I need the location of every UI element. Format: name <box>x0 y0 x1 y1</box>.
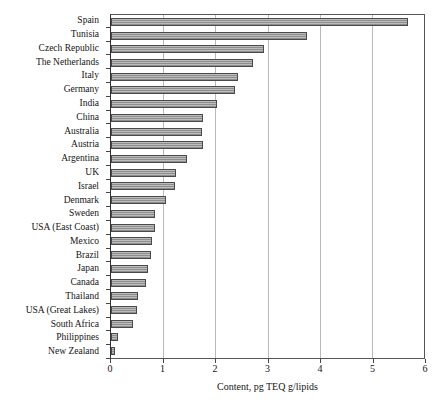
bar-row <box>111 235 424 249</box>
bar <box>111 141 203 149</box>
bar <box>111 251 151 259</box>
x-axis-tick-label: 1 <box>160 364 165 374</box>
category-label: Argentina <box>0 152 104 166</box>
category-label: New Zealand <box>0 345 104 359</box>
bar-row <box>111 180 424 194</box>
category-label: Israel <box>0 180 104 194</box>
bar <box>111 100 217 108</box>
bar-row <box>111 248 424 262</box>
bar-row <box>111 42 424 56</box>
category-axis-labels: SpainTunisiaCzech RepublicThe Netherland… <box>0 14 104 359</box>
category-label: India <box>0 97 104 111</box>
bar-row <box>111 138 424 152</box>
x-axis-tick-label: 3 <box>265 364 270 374</box>
category-label: Australia <box>0 124 104 138</box>
bar-row <box>111 70 424 84</box>
bar <box>111 155 187 163</box>
category-label: China <box>0 111 104 125</box>
bar-row <box>111 29 424 43</box>
bar <box>111 224 155 232</box>
bar <box>111 45 264 53</box>
bar <box>111 306 137 314</box>
category-label: Sweden <box>0 207 104 221</box>
bar <box>111 320 133 328</box>
bar-series <box>111 15 424 358</box>
bar-row <box>111 317 424 331</box>
category-label: Philippines <box>0 331 104 345</box>
category-label: Denmark <box>0 193 104 207</box>
bar-row <box>111 97 424 111</box>
bar <box>111 237 152 245</box>
bar <box>111 114 203 122</box>
bar <box>111 59 253 67</box>
bar-row <box>111 84 424 98</box>
category-label: Japan <box>0 262 104 276</box>
bar <box>111 32 307 40</box>
x-axis-tick-label: 4 <box>318 364 323 374</box>
bar <box>111 196 166 204</box>
bar-row <box>111 221 424 235</box>
category-label: Austria <box>0 138 104 152</box>
bar <box>111 210 155 218</box>
category-label: Canada <box>0 276 104 290</box>
category-label: USA (East Coast) <box>0 221 104 235</box>
bar-row <box>111 207 424 221</box>
x-axis-title: Content, pg TEQ g/lipids <box>110 381 425 392</box>
bar-chart: SpainTunisiaCzech RepublicThe Netherland… <box>0 0 448 416</box>
category-label: South Africa <box>0 318 104 332</box>
bar <box>111 265 148 273</box>
bar-row <box>111 289 424 303</box>
x-axis-tick-labels: 0123456 <box>110 364 425 378</box>
bar <box>111 86 235 94</box>
category-label: Brazil <box>0 249 104 263</box>
category-label: Thailand <box>0 290 104 304</box>
bar-row <box>111 276 424 290</box>
bar-row <box>111 331 424 345</box>
category-label: Italy <box>0 69 104 83</box>
x-axis-tick-label: 0 <box>108 364 113 374</box>
bar-row <box>111 262 424 276</box>
x-axis-tick-label: 6 <box>423 364 428 374</box>
bar-row <box>111 344 424 358</box>
category-label: The Netherlands <box>0 55 104 69</box>
bar-row <box>111 111 424 125</box>
bar-row <box>111 193 424 207</box>
plot-area <box>110 14 425 359</box>
bar-row <box>111 166 424 180</box>
bar <box>111 169 176 177</box>
x-axis-tick-label: 2 <box>213 364 218 374</box>
bar <box>111 18 408 26</box>
bar-row <box>111 303 424 317</box>
category-label: Mexico <box>0 235 104 249</box>
bar-row <box>111 152 424 166</box>
bar-row <box>111 56 424 70</box>
bar <box>111 73 238 81</box>
bar-row <box>111 125 424 139</box>
category-label: UK <box>0 166 104 180</box>
bar <box>111 182 175 190</box>
bar-row <box>111 15 424 29</box>
category-label: Czech Republic <box>0 42 104 56</box>
bar <box>111 333 118 341</box>
bar <box>111 279 146 287</box>
x-axis-tick-label: 5 <box>370 364 375 374</box>
bar <box>111 347 115 355</box>
bar <box>111 128 202 136</box>
category-label: USA (Great Lakes) <box>0 304 104 318</box>
category-label: Germany <box>0 83 104 97</box>
category-label: Tunisia <box>0 28 104 42</box>
bar <box>111 292 138 300</box>
category-label: Spain <box>0 14 104 28</box>
